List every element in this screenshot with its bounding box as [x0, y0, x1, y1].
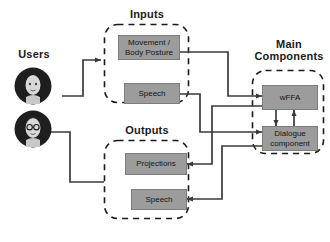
node-projections-label: Projections: [134, 159, 178, 169]
node-speech-input-label: Speech: [136, 89, 167, 99]
main-components-label-line2: Components: [249, 50, 329, 62]
node-dialogue-component[interactable]: Dialogue component: [262, 126, 318, 151]
connector-outputs-to-users: [44, 132, 104, 182]
node-speech-input[interactable]: Speech: [124, 83, 180, 104]
node-dialogue-line1: Dialogue: [268, 129, 312, 139]
node-dialogue-line2: component: [268, 139, 312, 149]
user-avatar-bottom: [14, 110, 52, 148]
node-projections[interactable]: Projections: [125, 153, 187, 175]
node-movement-line2: Body Posture: [123, 48, 175, 58]
node-wffa[interactable]: wFFA: [262, 85, 318, 110]
connector-speechin-to-dialogue: [180, 94, 262, 132]
main-components-label-line1: Main: [249, 38, 329, 50]
main-components-group-label: Main Components: [249, 38, 329, 62]
connector-users-to-movement: [62, 60, 101, 96]
users-title: Users: [8, 48, 60, 60]
node-movement-line1: Movement /: [123, 38, 175, 48]
connector-dialogue-to-speechout: [187, 146, 262, 199]
user-avatar-top: [14, 67, 52, 105]
node-speech-output-label: Speech: [143, 195, 174, 205]
diagram-canvas: Users Inputs Outputs Main Components Mov…: [0, 0, 330, 242]
node-wffa-label: wFFA: [278, 93, 302, 103]
node-speech-output[interactable]: Speech: [131, 189, 187, 210]
inputs-group-label: Inputs: [106, 8, 188, 20]
node-movement-body-posture[interactable]: Movement / Body Posture: [118, 35, 180, 60]
outputs-group-label: Outputs: [106, 124, 188, 136]
